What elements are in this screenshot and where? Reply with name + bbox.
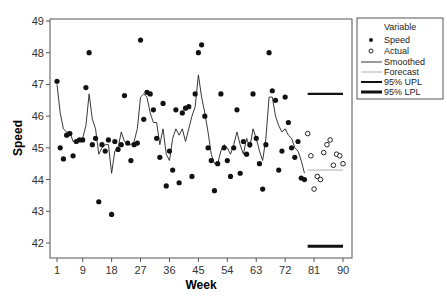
x-tick-label: 9 [80, 264, 86, 276]
speed-point [103, 148, 108, 153]
actual-point [321, 150, 326, 155]
speed-point [164, 183, 169, 188]
speed-point [231, 145, 236, 150]
legend-smoothed-label: Smoothed [384, 57, 425, 67]
speed-point [61, 156, 66, 161]
speed-point [122, 93, 127, 98]
speed-point [109, 212, 114, 217]
legend-speed-marker-icon [369, 38, 373, 42]
speed-point [67, 131, 72, 136]
y-axis: 4243444546474849 [32, 15, 50, 249]
actual-point [328, 138, 333, 143]
x-tick-label: 27 [134, 264, 146, 276]
y-axis-label: Speed [11, 120, 25, 156]
x-tick-label: 72 [279, 264, 291, 276]
actual-point [312, 187, 317, 192]
speed-point [99, 142, 104, 147]
speed-point [87, 50, 92, 55]
speed-point [93, 136, 98, 141]
x-tick-label: 45 [192, 264, 204, 276]
speed-point [138, 37, 143, 42]
speed-point [196, 50, 201, 55]
legend-forecast-label: Forecast [384, 67, 420, 77]
actual-point [331, 163, 336, 168]
legend: Variable Speed Actual Smoothed Forecast … [357, 18, 443, 99]
speed-point [270, 88, 275, 93]
speed-point [128, 158, 133, 163]
speed-point [234, 107, 239, 112]
speed-point [180, 110, 185, 115]
speed-point [263, 142, 268, 147]
speed-point [266, 50, 271, 55]
speed-point [199, 42, 204, 47]
speed-point [141, 117, 146, 122]
speed-point [193, 91, 198, 96]
actual-point [325, 142, 330, 147]
speed-point [257, 161, 262, 166]
y-tick-label: 43 [32, 205, 44, 217]
x-tick-label: 1 [54, 264, 60, 276]
speed-point [241, 139, 246, 144]
x-axis-label: Week [185, 278, 216, 292]
speed-point [189, 174, 194, 179]
speed-point [244, 152, 249, 157]
speed-point [160, 101, 165, 106]
x-tick-label: 36 [163, 264, 175, 276]
speed-point [96, 199, 101, 204]
speed-point [115, 147, 120, 152]
actual-point [341, 161, 346, 166]
speed-point [238, 171, 243, 176]
speed-point [202, 114, 207, 119]
legend-lpl-label: 95% LPL [384, 87, 421, 97]
speed-point [279, 148, 284, 153]
speed-point [170, 167, 175, 172]
speed-point [247, 142, 252, 147]
x-tick-label: 63 [250, 264, 262, 276]
speed-point [254, 136, 259, 141]
speed-point [186, 104, 191, 109]
legend-speed-label: Speed [384, 35, 410, 45]
speed-point [173, 107, 178, 112]
speed-point [205, 145, 210, 150]
speed-point [167, 148, 172, 153]
speed-point [273, 98, 278, 103]
x-tick-label: 90 [337, 264, 349, 276]
y-tick-label: 47 [32, 78, 44, 90]
speed-point [177, 180, 182, 185]
x-tick-label: 18 [106, 264, 118, 276]
actual-point [318, 177, 323, 182]
speed-point [54, 79, 59, 84]
speed-point [295, 139, 300, 144]
speed-point [70, 153, 75, 158]
actual-point [305, 131, 310, 136]
y-tick-label: 44 [32, 174, 44, 186]
speed-point [135, 141, 140, 146]
speed-point [209, 158, 214, 163]
y-tick-label: 46 [32, 110, 44, 122]
speed-point [119, 142, 124, 147]
y-tick-label: 49 [32, 15, 44, 27]
legend-upl-label: 95% UPL [384, 77, 422, 87]
speed-point [302, 177, 307, 182]
x-axis: 19182736455463728190 [54, 258, 349, 276]
legend-title: Variable [384, 22, 416, 32]
speed-point [151, 107, 156, 112]
speed-point [90, 142, 95, 147]
speed-point [157, 155, 162, 160]
speed-point [154, 136, 159, 141]
speed-point [125, 141, 130, 146]
speed-point [289, 145, 294, 150]
speed-point [276, 167, 281, 172]
speed-point [222, 145, 227, 150]
actual-point [337, 153, 342, 158]
speed-point [212, 188, 217, 193]
speed-point [286, 120, 291, 125]
speed-point [225, 158, 230, 163]
y-tick-label: 45 [32, 142, 44, 154]
speed-point [215, 161, 220, 166]
speed-point [292, 155, 297, 160]
speed-point [80, 137, 85, 142]
chart-canvas: 4243444546474849 19182736455463728190 Sp… [0, 0, 447, 296]
speed-point [112, 139, 117, 144]
speed-point [148, 91, 153, 96]
